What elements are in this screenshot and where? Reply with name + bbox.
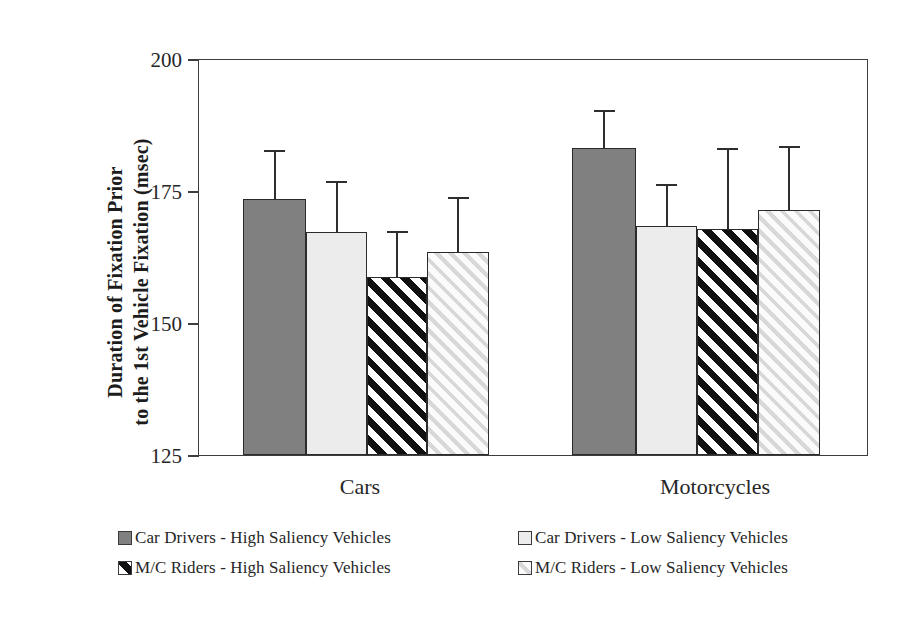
error-bar-motorcycles-mc-riders-high (727, 149, 729, 229)
bar-cars-mc-riders-low (427, 252, 489, 455)
legend-label-mc-riders-high: M/C Riders - High Saliency Vehicles (135, 558, 391, 577)
legend-swatch-hatch-dark-icon (118, 561, 132, 575)
error-bar-motorcycles-car-drivers-low (666, 185, 668, 226)
error-cap-motorcycles-mc-riders-high (717, 148, 738, 150)
error-cap-motorcycles-car-drivers-high (594, 110, 615, 112)
x-category-label-motorcycles: Motorcycles (625, 476, 805, 498)
legend-swatch-solid-gray-icon (118, 531, 132, 545)
y-axis-title: Duration of Fixation Prior to the 1st Ve… (102, 72, 154, 492)
legend-swatch-hatch-light-icon (518, 561, 532, 575)
legend-swatch-light-icon (518, 531, 532, 545)
error-cap-motorcycles-car-drivers-low (656, 184, 677, 186)
legend-item-mc-riders-high: M/C Riders - High Saliency Vehicles (118, 558, 518, 577)
y-axis-title-line-1: Duration of Fixation Prior (102, 72, 128, 492)
bar-motorcycles-car-drivers-high (572, 148, 636, 455)
error-bar-cars-mc-riders-low (457, 198, 459, 252)
y-axis-title-line-2: to the 1st Vehicle Fixation (msec) (128, 72, 154, 492)
bar-motorcycles-mc-riders-high (697, 229, 758, 455)
error-cap-cars-mc-riders-low (448, 197, 469, 199)
error-bar-motorcycles-car-drivers-high (603, 111, 605, 148)
legend-row-2: M/C Riders - High Saliency Vehicles M/C … (118, 558, 858, 577)
bar-motorcycles-mc-riders-low (758, 210, 820, 455)
legend-item-car-drivers-high: Car Drivers - High Saliency Vehicles (118, 528, 518, 547)
y-tick-label-175: 175 (124, 182, 182, 203)
bar-cars-mc-riders-high (367, 277, 427, 455)
legend-item-mc-riders-low: M/C Riders - Low Saliency Vehicles (518, 558, 788, 577)
error-cap-motorcycles-mc-riders-low (779, 146, 800, 148)
legend-label-car-drivers-low: Car Drivers - Low Saliency Vehicles (535, 528, 788, 547)
bar-motorcycles-car-drivers-low (636, 226, 697, 455)
legend-row-1: Car Drivers - High Saliency Vehicles Car… (118, 528, 858, 547)
error-cap-cars-car-drivers-high (264, 150, 285, 152)
error-cap-cars-mc-riders-high (387, 231, 408, 233)
bar-cars-car-drivers-low (306, 232, 367, 455)
y-tick-label-125: 125 (124, 446, 182, 467)
x-category-label-cars: Cars (300, 476, 420, 498)
legend-label-mc-riders-low: M/C Riders - Low Saliency Vehicles (535, 558, 788, 577)
plot-area (198, 59, 868, 456)
bar-chart-figure: Duration of Fixation Prior to the 1st Ve… (0, 0, 915, 633)
legend-label-car-drivers-high: Car Drivers - High Saliency Vehicles (135, 528, 391, 547)
y-tick-label-200: 200 (124, 50, 182, 71)
chart-legend: Car Drivers - High Saliency Vehicles Car… (118, 528, 858, 588)
legend-item-car-drivers-low: Car Drivers - Low Saliency Vehicles (518, 528, 788, 547)
error-bar-cars-car-drivers-low (336, 182, 338, 232)
y-tick-label-150: 150 (124, 314, 182, 335)
error-bar-motorcycles-mc-riders-low (788, 147, 790, 210)
error-bar-cars-car-drivers-high (274, 151, 276, 199)
bar-cars-car-drivers-high (243, 199, 306, 455)
error-bar-cars-mc-riders-high (396, 232, 398, 277)
error-cap-cars-car-drivers-low (326, 181, 347, 183)
